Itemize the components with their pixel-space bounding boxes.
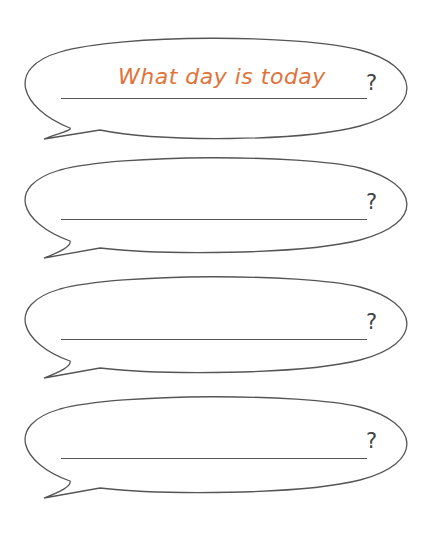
speech-bubble-outline-icon [0,397,442,517]
answer-line[interactable] [61,458,367,459]
speech-bubble-2: ? [0,158,442,278]
question-mark: ? [366,71,377,95]
speech-bubble-3: ? [0,277,442,397]
answer-text[interactable]: What day is today [118,64,326,89]
answer-line[interactable] [61,98,367,99]
question-mark: ? [366,190,377,214]
answer-line[interactable] [61,219,367,220]
question-mark: ? [366,429,377,453]
speech-bubble-outline-icon [0,277,442,397]
speech-bubble-4: ? [0,397,442,517]
question-mark: ? [366,310,377,334]
answer-line[interactable] [61,339,367,340]
speech-bubble-1: What day is today ? [0,38,442,158]
worksheet: What day is today ? ? ? ? [0,0,442,543]
speech-bubble-outline-icon [0,158,442,278]
